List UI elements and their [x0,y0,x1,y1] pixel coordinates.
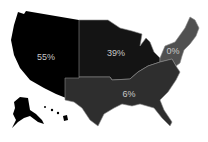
region-west-alaska[interactable] [12,97,44,128]
value-label-midwest: 39% [107,48,125,58]
value-label-west: 55% [37,52,55,62]
region-west-hawaii[interactable] [44,106,68,121]
value-label-south: 6% [122,89,135,99]
region-northeast[interactable] [160,17,199,66]
value-label-northeast: 0% [166,46,179,56]
us-region-map: 55% 39% 0% 6% [0,0,208,142]
